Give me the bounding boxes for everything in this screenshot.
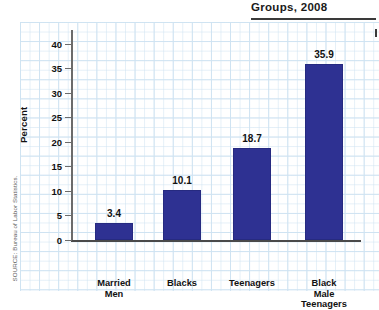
y-axis-tick-label: 5 [57,210,62,221]
bar-value-label: 3.4 [107,208,121,219]
title-underline-end-tick [375,29,377,37]
y-axis-tick [65,142,72,143]
title-underline [251,18,376,20]
bar [233,148,271,240]
bar-value-label: 18.7 [242,133,261,144]
x-axis-category-label: Blacks [167,278,197,289]
plot-area: 05101520253035403.4Married Men10.1Blacks… [72,34,360,240]
bar [305,64,343,240]
y-axis-tick-label: 0 [57,235,62,246]
x-axis-category-label: Married Men [97,278,131,299]
y-axis-tick-label: 15 [51,161,62,172]
y-axis-tick [65,240,72,241]
y-axis-tick [65,215,72,216]
y-axis-tick [65,117,72,118]
y-axis-tick-label: 35 [51,63,62,74]
y-axis-tick-label: 10 [51,185,62,196]
y-axis-tick-label: 20 [51,136,62,147]
source-note: SOURCE: Bureau of Labor Statistics. [11,162,18,282]
y-axis-tick [65,68,72,69]
bar-value-label: 10.1 [172,175,191,186]
page-title: Groups, 2008 [243,1,379,13]
x-axis-category-label: Black Male Teenagers [301,278,347,310]
x-axis-category-label: Teenagers [229,278,275,289]
y-axis-tick-label: 25 [51,112,62,123]
y-axis-tick-label: 30 [51,87,62,98]
y-axis-tick [65,191,72,192]
bar [163,190,201,240]
y-axis-tick [65,166,72,167]
bar [95,223,133,240]
y-axis-tick [65,44,72,45]
chart-title-container: Groups, 2008 [243,1,379,21]
x-axis-line [71,240,361,242]
bar-value-label: 35.9 [314,49,333,60]
y-axis-tick [65,93,72,94]
y-axis-title: Percent [18,107,29,143]
y-axis-tick-label: 40 [51,38,62,49]
